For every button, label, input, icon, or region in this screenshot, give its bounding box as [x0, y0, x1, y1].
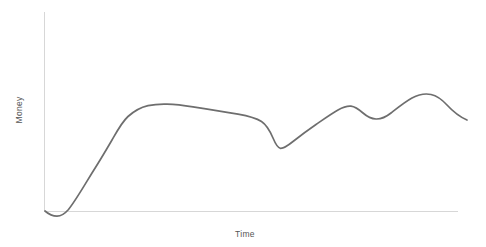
- x-axis-label: Time: [235, 229, 255, 239]
- money-over-time-curve: [45, 94, 467, 216]
- chart-container: Money Time: [0, 0, 486, 247]
- line-chart: Money Time: [0, 0, 486, 247]
- y-axis-label: Money: [14, 96, 24, 123]
